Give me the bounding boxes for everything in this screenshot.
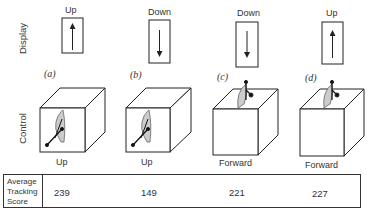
display-box-d	[322, 22, 343, 64]
display-box-a	[62, 18, 83, 53]
control-label-b: Up	[141, 157, 153, 167]
score-c: 221	[229, 187, 245, 198]
score-a: 239	[54, 187, 70, 198]
score-b: 149	[141, 187, 157, 198]
control-cube-a	[40, 88, 105, 152]
control-label-a: Up	[56, 157, 68, 167]
score-d: 227	[312, 188, 328, 199]
control-cube-c	[213, 80, 278, 155]
control-cube-b	[126, 88, 191, 152]
score-row-header: Average Tracking Score	[4, 175, 43, 207]
control-cube-d	[300, 80, 364, 156]
score-table: Average Tracking Score 239 149 221 227	[3, 174, 361, 208]
control-label-d: Forward	[305, 160, 338, 170]
control-label-c: Forward	[219, 158, 252, 168]
display-box-c	[236, 22, 258, 67]
display-box-b	[149, 20, 170, 63]
